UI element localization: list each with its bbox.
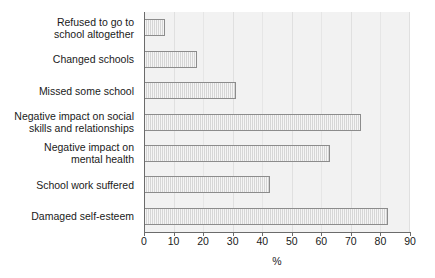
x-tick-label: 20 <box>191 235 215 247</box>
x-tick-mark <box>233 233 234 236</box>
category-label-line: Changed schools <box>0 53 134 65</box>
category-label-line: Damaged self-esteem <box>0 210 134 222</box>
bar <box>144 114 361 131</box>
x-tick-mark <box>380 233 381 236</box>
x-tick-label: 10 <box>162 235 186 247</box>
plot-area <box>144 12 410 232</box>
chart-title <box>144 0 410 2</box>
gridline-vertical <box>409 12 410 232</box>
category-label-line: School work suffered <box>0 179 134 191</box>
x-tick-label: 30 <box>221 235 245 247</box>
category-label-line: school altogether <box>0 28 134 40</box>
x-axis-line <box>144 232 411 233</box>
x-tick-mark <box>262 233 263 236</box>
y-axis-line <box>144 12 145 233</box>
bar <box>144 19 165 36</box>
category-label-line: Negative impact on social <box>0 110 134 122</box>
gridline-vertical <box>380 12 381 232</box>
category-label: Missed some school <box>0 85 138 97</box>
x-axis-title: % <box>144 255 410 267</box>
category-label-line: Missed some school <box>0 85 134 97</box>
x-tick-label: 80 <box>368 235 392 247</box>
bar <box>144 176 270 193</box>
x-tick-label: 90 <box>398 235 422 247</box>
x-tick-mark <box>144 233 145 236</box>
x-tick-mark <box>410 233 411 236</box>
category-label-line: Refused to go to <box>0 16 134 28</box>
x-tick-label: 50 <box>280 235 304 247</box>
category-label: Negative impact on socialskills and rela… <box>0 110 138 134</box>
category-label: Negative impact onmental health <box>0 141 138 165</box>
category-label-line: skills and relationships <box>0 122 134 134</box>
x-tick-label: 40 <box>250 235 274 247</box>
x-tick-label: 70 <box>339 235 363 247</box>
category-label-line: Negative impact on <box>0 141 134 153</box>
x-tick-mark <box>321 233 322 236</box>
bar <box>144 82 236 99</box>
bar <box>144 208 388 225</box>
category-label: Changed schools <box>0 53 138 65</box>
bar <box>144 145 330 162</box>
x-tick-mark <box>203 233 204 236</box>
x-tick-label: 60 <box>309 235 333 247</box>
category-label-line: mental health <box>0 153 134 165</box>
x-tick-label: 0 <box>132 235 156 247</box>
x-tick-mark <box>174 233 175 236</box>
category-label: School work suffered <box>0 179 138 191</box>
category-label: Refused to go toschool altogether <box>0 16 138 40</box>
x-tick-mark <box>292 233 293 236</box>
x-tick-mark <box>351 233 352 236</box>
bar <box>144 51 197 68</box>
bar-chart: Refused to go toschool altogetherChanged… <box>0 0 435 278</box>
category-label: Damaged self-esteem <box>0 210 138 222</box>
